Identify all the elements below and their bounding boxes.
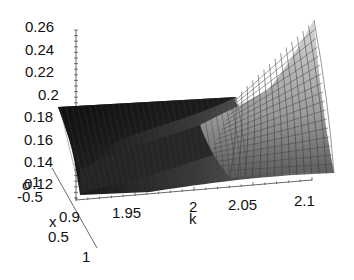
sigma-tick-5: 1 xyxy=(82,248,90,265)
z-tick-8: 0.12 xyxy=(24,175,53,192)
z-tick-5: 0.18 xyxy=(24,108,53,125)
z-tick-3: 0.22 xyxy=(25,63,54,80)
k-axis-title: k xyxy=(189,210,197,227)
sigma-tick-4: 0.5 xyxy=(48,228,69,245)
k-tick-3: 2.05 xyxy=(228,196,257,213)
sigma-tick-3: 0.9 xyxy=(59,208,80,225)
z-tick-7: 0.14 xyxy=(24,153,53,170)
z-tick-1: 0.26 xyxy=(25,18,54,35)
k-tick-4: 2.1 xyxy=(294,192,315,209)
z-tick-4: 0.2 xyxy=(38,86,59,103)
surface-plot: 1.95 2 2.05 2.1 k σ 1 -0.5 x 0.9 0.5 1 0… xyxy=(0,0,354,280)
z-tick-2: 0.24 xyxy=(25,41,54,58)
z-tick-labels: 0.26 0.24 0.22 0.2 0.18 0.16 0.14 0.12 xyxy=(24,18,59,192)
k-tick-1: 1.95 xyxy=(112,204,141,221)
z-tick-6: 0.16 xyxy=(24,131,53,148)
